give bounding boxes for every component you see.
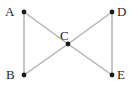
graph-edge-c-e xyxy=(68,44,112,75)
graph-edge-b-c xyxy=(24,44,68,75)
graph-figure: ABCDE xyxy=(0,0,135,91)
graph-vertex-d xyxy=(110,10,115,15)
vertex-label-a: A xyxy=(5,5,14,18)
graph-vertex-a xyxy=(22,10,27,15)
graph-vertex-e xyxy=(110,73,115,78)
vertex-label-d: D xyxy=(117,5,126,18)
graph-vertex-b xyxy=(22,73,27,78)
graph-edge-c-d xyxy=(68,12,112,44)
vertex-label-c: C xyxy=(60,29,69,42)
vertex-label-b: B xyxy=(6,68,15,81)
graph-canvas xyxy=(0,0,135,91)
vertex-label-e: E xyxy=(117,68,125,81)
